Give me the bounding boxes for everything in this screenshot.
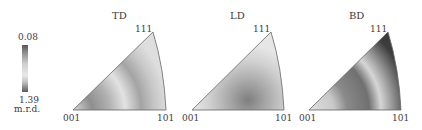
- panel-title-td: TD: [112, 11, 127, 20]
- ipf-triangle-ld: [192, 32, 284, 110]
- corner-label-101: 101: [157, 114, 174, 123]
- ipf-triangle-bd: [309, 32, 401, 110]
- corner-label-111: 111: [253, 25, 270, 34]
- corner-label-001: 001: [299, 114, 316, 123]
- panel-title-ld: LD: [230, 11, 245, 20]
- corner-label-001: 001: [63, 114, 80, 123]
- colorbar: [22, 45, 28, 92]
- colorbar-unit-label: m.r.d.: [14, 105, 40, 114]
- colorbar-top-label: 0.08: [18, 33, 38, 42]
- corner-label-001: 001: [182, 114, 199, 123]
- corner-label-101: 101: [392, 114, 409, 123]
- ipf-triangle-td: [73, 32, 166, 110]
- corner-label-111: 111: [135, 25, 152, 34]
- corner-label-101: 101: [275, 114, 292, 123]
- panel-title-bd: BD: [349, 11, 364, 20]
- corner-label-111: 111: [370, 25, 387, 34]
